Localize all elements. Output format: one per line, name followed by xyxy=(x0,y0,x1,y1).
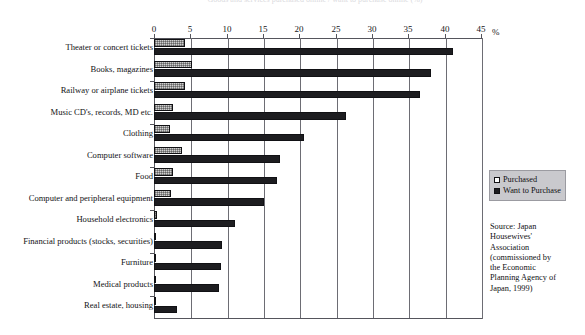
bar-purchased xyxy=(154,39,185,47)
bar-purchased xyxy=(154,297,156,305)
x-tick-label-40: 40 xyxy=(441,24,450,34)
bar-purchased xyxy=(154,104,173,112)
bar-want-to-purchase xyxy=(154,48,453,56)
bar-want-to-purchase xyxy=(154,91,420,99)
source-note-line: Association xyxy=(490,243,582,253)
x-axis-unit-label: % xyxy=(492,27,500,37)
x-tick-label-0: 0 xyxy=(152,24,157,34)
x-tick-label-10: 10 xyxy=(223,24,232,34)
x-tick-label-5: 5 xyxy=(188,24,193,34)
bar-purchased xyxy=(154,233,156,241)
legend-swatch-want-to-purchase-icon xyxy=(494,188,500,194)
source-note-line: Housewives' xyxy=(490,232,582,242)
category-label-computer-and-peripheral-equipment: Computer and peripheral equipment xyxy=(0,193,153,203)
source-note-line: Planning Agency of xyxy=(490,273,582,283)
category-label-railway-or-airplane-tickets: Railway or airplane tickets xyxy=(0,85,153,95)
bar-purchased xyxy=(154,211,157,219)
x-tick-label-15: 15 xyxy=(259,24,268,34)
x-tick-label-25: 25 xyxy=(332,24,341,34)
chart-legend: Purchased Want to Purchase xyxy=(489,170,566,201)
bar-want-to-purchase xyxy=(154,198,264,206)
bar-purchased xyxy=(154,61,192,69)
x-tick-label-20: 20 xyxy=(295,24,304,34)
bar-want-to-purchase xyxy=(154,220,235,228)
category-label-clothing: Clothing xyxy=(0,128,153,138)
x-tick-label-45: 45 xyxy=(477,24,486,34)
legend-item-purchased: Purchased xyxy=(494,174,561,185)
bar-want-to-purchase xyxy=(154,263,221,271)
category-label-real-estate-housing: Real estate, housing xyxy=(0,300,153,310)
bar-want-to-purchase xyxy=(154,306,177,314)
category-label-theater-or-concert-tickets: Theater or concert tickets xyxy=(0,42,153,52)
table-row: Music CD's, records, MD etc. xyxy=(0,103,585,125)
source-note-line: Japan, 1999) xyxy=(490,284,582,294)
bar-purchased xyxy=(154,125,170,133)
cut-off-chart-title: Goods and services purchased online / wa… xyxy=(150,0,480,4)
category-label-books-magazines: Books, magazines xyxy=(0,64,153,74)
category-label-food: Food xyxy=(0,171,153,181)
bar-purchased xyxy=(154,147,182,155)
bar-purchased xyxy=(154,82,185,90)
bar-purchased xyxy=(154,276,156,284)
bar-want-to-purchase xyxy=(154,177,277,185)
x-tick-label-30: 30 xyxy=(368,24,377,34)
legend-swatch-purchased-icon xyxy=(494,177,500,183)
x-tick-label-35: 35 xyxy=(404,24,413,34)
source-note-line: (commissioned by xyxy=(490,253,582,263)
table-row: Computer software xyxy=(0,146,585,168)
category-label-household-electronics: Household electronics xyxy=(0,214,153,224)
bar-want-to-purchase xyxy=(154,155,280,163)
source-note: Source: Japan Housewives' Association (c… xyxy=(490,222,582,294)
legend-item-want-to-purchase: Want to Purchase xyxy=(494,185,561,196)
plot-bottom-axis xyxy=(154,318,483,319)
table-row: Clothing xyxy=(0,124,585,146)
category-label-financial-products-stocks-securities: Financial products (stocks, securities) xyxy=(0,236,153,246)
category-label-medical-products: Medical products xyxy=(0,279,153,289)
table-row: Railway or airplane tickets xyxy=(0,81,585,103)
table-row: Theater or concert tickets xyxy=(0,38,585,60)
bar-want-to-purchase xyxy=(154,284,219,292)
category-label-computer-software: Computer software xyxy=(0,150,153,160)
bar-want-to-purchase xyxy=(154,134,304,142)
legend-label-purchased: Purchased xyxy=(503,174,537,185)
table-row: Real estate, housing xyxy=(0,296,585,318)
bar-purchased xyxy=(154,254,156,262)
source-note-line: the Economic xyxy=(490,263,582,273)
category-label-furniture: Furniture xyxy=(0,257,153,267)
category-label-music-cds-records-md-etc: Music CD's, records, MD etc. xyxy=(0,107,153,117)
bar-purchased xyxy=(154,168,173,176)
chart-container: Goods and services purchased online / wa… xyxy=(0,0,585,335)
source-note-line: Source: Japan xyxy=(490,222,582,232)
table-row: Books, magazines xyxy=(0,60,585,82)
bar-want-to-purchase xyxy=(154,112,346,120)
bar-want-to-purchase xyxy=(154,69,431,77)
legend-label-want-to-purchase: Want to Purchase xyxy=(503,185,561,196)
bar-want-to-purchase xyxy=(154,241,222,249)
bar-purchased xyxy=(154,190,171,198)
